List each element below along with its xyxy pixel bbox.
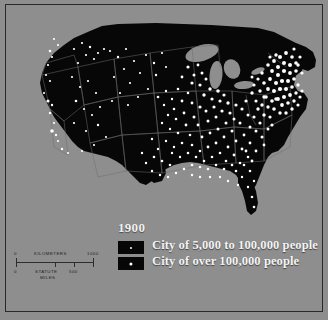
scale-mi-start-label: 0 xyxy=(14,269,17,274)
scale-mi-unit-label-2: MILES xyxy=(40,275,55,280)
map-figure: 0 KILOMETERS 1000 0 STATUTE MILES 500 19… xyxy=(0,0,328,320)
scale-km-unit-label: KILOMETERS xyxy=(34,251,67,256)
scale-bar: 0 KILOMETERS 1000 0 STATUTE MILES 500 xyxy=(12,250,104,286)
scale-tick-miles xyxy=(74,262,75,267)
legend-year-label: 1900 xyxy=(118,220,318,236)
legend-item-large-city: City of over 100,000 people xyxy=(118,255,318,270)
scale-mi-unit-label-1: STATUTE xyxy=(35,269,58,274)
map-legend: 1900 City of 5,000 to 100,000 people Cit… xyxy=(118,220,318,271)
legend-label-small-city: City of 5,000 to 100,000 people xyxy=(152,239,318,253)
large-city-dot-icon xyxy=(118,257,144,270)
scale-tick-mid xyxy=(55,262,56,267)
scale-km-end-label: 1000 xyxy=(87,251,99,256)
legend-label-large-city: City of over 100,000 people xyxy=(152,255,299,269)
scale-km-start-label: 0 xyxy=(14,251,17,256)
scale-tick-right xyxy=(93,258,94,267)
scale-mi-end-label: 500 xyxy=(69,269,78,274)
scale-tick-left xyxy=(16,258,17,267)
small-city-dot-icon xyxy=(118,241,144,254)
legend-item-small-city: City of 5,000 to 100,000 people xyxy=(118,239,318,254)
